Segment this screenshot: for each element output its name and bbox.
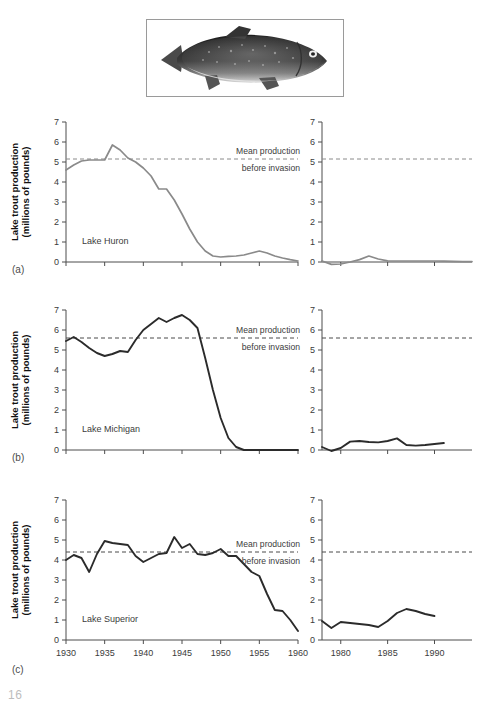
x-tick-label: 1990 (424, 648, 444, 658)
mean-annotation-line1: Mean production (236, 325, 300, 335)
y-tick-label: 3 (54, 385, 59, 395)
y-axis-title-line1: Lake trout production (9, 521, 20, 619)
y-tick-label: 0 (54, 635, 59, 645)
x-tick-label: 1950 (211, 648, 231, 658)
mean-annotation-line2: before invasion (242, 342, 301, 352)
y-tick-label: 4 (54, 365, 59, 375)
y-tick-label: 1 (310, 237, 315, 247)
y-tick-label: 5 (310, 157, 315, 167)
y-tick-label: 5 (310, 535, 315, 545)
y-tick-label: 5 (54, 535, 59, 545)
y-tick-label: 0 (310, 257, 315, 267)
y-tick-label: 3 (310, 197, 315, 207)
y-tick-label: 4 (310, 177, 315, 187)
y-tick-label: 3 (310, 575, 315, 585)
y-axis-title: Lake trout production(millions of pounds… (9, 143, 31, 241)
y-tick-label: 5 (310, 345, 315, 355)
axis-lines (322, 122, 472, 262)
y-axis-title: Lake trout production(millions of pounds… (9, 331, 31, 429)
y-tick-label: 4 (310, 555, 315, 565)
series-label-lake-michigan: Lake Michigan (82, 424, 140, 434)
y-tick-label: 2 (54, 217, 59, 227)
y-tick-label: 2 (310, 595, 315, 605)
y-tick-label: 7 (54, 495, 59, 505)
y-tick-label: 5 (54, 157, 59, 167)
y-tick-label: 1 (310, 425, 315, 435)
y-tick-label: 7 (310, 117, 315, 127)
y-tick-label: 2 (54, 595, 59, 605)
y-tick-label: 3 (54, 575, 59, 585)
y-axis-title-line1: Lake trout production (9, 331, 20, 429)
y-axis-title: Lake trout production(millions of pounds… (9, 521, 31, 619)
y-tick-label: 1 (54, 237, 59, 247)
mean-annotation-line2: before invasion (242, 556, 301, 566)
y-tick-label: 0 (310, 445, 315, 455)
y-tick-label: 6 (54, 325, 59, 335)
mean-annotation-line2: before invasion (242, 163, 301, 173)
y-tick-label: 1 (54, 425, 59, 435)
series-label-lake-huron: Lake Huron (82, 236, 129, 246)
series-label-lake-superior: Lake Superior (82, 614, 138, 624)
x-tick-label: 1930 (56, 648, 76, 658)
y-tick-label: 5 (54, 345, 59, 355)
y-tick-label: 0 (310, 635, 315, 645)
y-tick-label: 7 (310, 495, 315, 505)
x-tick-label: 1940 (133, 648, 153, 658)
x-tick-label: 1955 (249, 648, 269, 658)
data-line-lake-michigan (322, 438, 444, 451)
y-axis-title-line2: (millions of pounds) (20, 147, 31, 238)
y-tick-label: 0 (54, 257, 59, 267)
y-tick-label: 6 (310, 325, 315, 335)
y-tick-label: 3 (54, 197, 59, 207)
chart-panel-2: Lake trout production(millions of pounds… (9, 305, 472, 455)
y-tick-label: 2 (310, 405, 315, 415)
chart-panel-1: Lake trout production(millions of pounds… (9, 117, 472, 267)
data-line-lake-huron (322, 256, 472, 264)
y-axis-title-line1: Lake trout production (9, 143, 20, 241)
y-tick-label: 2 (54, 405, 59, 415)
y-tick-label: 1 (310, 615, 315, 625)
x-tick-label: 1945 (172, 648, 192, 658)
y-tick-label: 2 (310, 217, 315, 227)
y-tick-label: 6 (310, 137, 315, 147)
y-tick-label: 6 (54, 515, 59, 525)
y-tick-label: 6 (310, 515, 315, 525)
y-tick-label: 1 (54, 615, 59, 625)
data-line-lake-superior (322, 609, 435, 628)
axis-lines (322, 500, 472, 640)
y-axis-title-line2: (millions of pounds) (20, 335, 31, 426)
y-tick-label: 7 (54, 117, 59, 127)
x-tick-label: 1960 (288, 648, 308, 658)
y-tick-label: 4 (310, 365, 315, 375)
y-axis-title-line2: (millions of pounds) (20, 525, 31, 616)
mean-annotation-line1: Mean production (236, 146, 300, 156)
y-tick-label: 7 (310, 305, 315, 315)
x-tick-label: 1935 (95, 648, 115, 658)
y-tick-label: 7 (54, 305, 59, 315)
y-tick-label: 0 (54, 445, 59, 455)
y-tick-label: 4 (54, 555, 59, 565)
y-tick-label: 3 (310, 385, 315, 395)
chart-panel-3: Lake trout production(millions of pounds… (9, 495, 472, 658)
axis-lines (322, 310, 472, 450)
y-tick-label: 4 (54, 177, 59, 187)
x-tick-label: 1985 (378, 648, 398, 658)
mean-annotation-line1: Mean production (236, 539, 300, 549)
x-tick-label: 1980 (331, 648, 351, 658)
y-tick-label: 6 (54, 137, 59, 147)
